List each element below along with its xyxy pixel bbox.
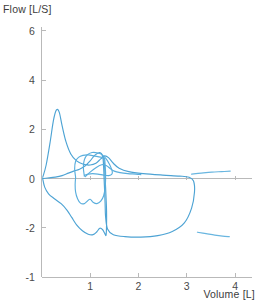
flow-volume-loop-1 [43,109,195,237]
x-tick-label: 2 [136,280,142,292]
x-tick-label: 4 [232,280,238,292]
traces-layer [43,109,230,237]
flow-volume-loop-7 [192,171,231,174]
flow-volume-loop-6 [197,232,229,236]
x-tick-label: 1 [87,280,93,292]
y-tick-label: -1 [0,271,35,283]
plot-area [0,0,259,302]
axes-layer [42,27,252,277]
x-tick-label: 3 [184,280,190,292]
flow-volume-loop-5 [85,165,141,177]
y-tick-label: 0 [0,173,35,185]
y-tick-label: 4 [0,74,35,86]
y-tick-label: -2 [0,222,35,234]
y-tick-label: 2 [0,123,35,135]
flow-volume-chart: Flow [L/S] Volume [L] 6420-2-11234 [0,0,259,302]
y-tick-label: 6 [0,25,35,37]
